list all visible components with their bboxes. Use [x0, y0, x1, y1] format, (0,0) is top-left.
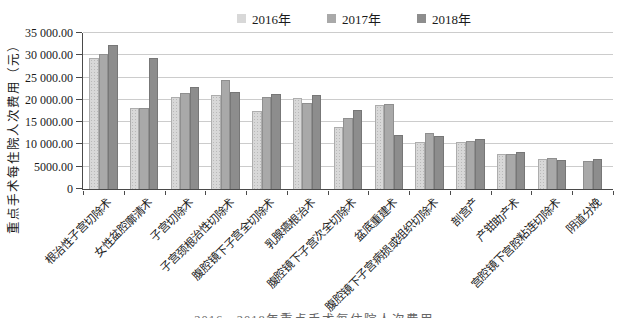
bar-group-剖宫产	[450, 33, 491, 189]
bar-group-盆底重建术	[368, 33, 409, 189]
bar-2016年-宫腔镜下宫腔粘连切除术	[538, 159, 548, 189]
y-axis-tick	[76, 121, 82, 122]
bar-2016年-剖宫产	[456, 142, 466, 189]
bar-2016年-盆底重建术	[375, 105, 385, 189]
bar-group-子宫切除术	[165, 33, 206, 189]
y-tick-label: 25 000.00	[25, 70, 73, 85]
bar-2018年-盆底重建术	[394, 135, 404, 189]
bar-2017年-子宫切除术	[180, 93, 190, 189]
legend-item-2018年: 2018年	[417, 9, 471, 28]
y-tick-label: 35 000.00	[25, 26, 73, 41]
x-axis-tick	[83, 191, 84, 195]
x-axis-tick	[368, 191, 369, 195]
bar-2016年-产钳助产术	[497, 154, 507, 189]
x-axis-label: 剖宫产	[447, 194, 482, 229]
x-axis-tick	[572, 191, 573, 195]
bar-2017年-剖宫产	[466, 141, 476, 189]
x-axis-tick	[409, 191, 410, 195]
legend-item-2017年: 2017年	[327, 9, 381, 28]
bar-2018年-宫腔镜下宫腔粘连切除术	[557, 160, 567, 189]
x-axis-tick	[450, 191, 451, 195]
bar-2018年-剖宫产	[475, 139, 485, 189]
bar-2018年-产钳助产术	[516, 152, 526, 189]
bar-2017年-乳腺癌根治术	[302, 103, 312, 189]
bar-group-乳腺癌根治术	[287, 33, 328, 189]
bar-group-宫腔镜下宫腔粘连切除术	[531, 33, 572, 189]
x-axis-tick	[246, 191, 247, 195]
bar-2017年-女性盆腔廓清术	[139, 108, 149, 189]
y-axis-tick	[76, 32, 82, 33]
x-axis-tick	[205, 191, 206, 195]
bar-group-根治性子宫切除术	[83, 33, 124, 189]
y-axis-tick	[76, 166, 82, 167]
bar-2018年-腹腔镜下子宫次全切除术	[353, 110, 363, 189]
x-axis-tick	[165, 191, 166, 195]
bar-group-阴道分娩	[572, 33, 613, 189]
bar-2018年-根治性子宫切除术	[108, 45, 118, 189]
y-tick-label: 10 000.00	[25, 137, 73, 152]
x-axis-tick	[287, 191, 288, 195]
bar-2017年-根治性子宫切除术	[99, 54, 109, 189]
bar-2017年-阴道分娩	[583, 161, 593, 189]
x-axis-label: 阴道分娩	[561, 194, 603, 236]
bar-2016年-女性盆腔廓清术	[130, 108, 140, 189]
bar-2016年-腹腔镜下子宫全切除术	[252, 111, 262, 189]
bar-chart-figure: 2016年2017年2018年 重点手术每住院人次费用（元） 35 000.00…	[0, 0, 628, 318]
bar-2017年-盆底重建术	[384, 104, 394, 189]
y-axis-tick	[76, 77, 82, 78]
bar-2017年-宫腔镜下宫腔粘连切除术	[547, 158, 557, 189]
legend-label: 2016年	[252, 9, 291, 28]
legend-swatch-icon	[327, 14, 336, 23]
bar-2016年-腹腔镜下子宫次全切除术	[334, 127, 344, 189]
bar-2017年-产钳助产术	[506, 154, 516, 189]
y-tick-label: 20 000.00	[25, 92, 73, 107]
x-axis-tick	[491, 191, 492, 195]
x-axis-tick	[328, 191, 329, 195]
x-axis-tick	[124, 191, 125, 195]
bar-2018年-阴道分娩	[593, 159, 603, 189]
y-axis-tick	[76, 143, 82, 144]
bar-2018年-腹腔镜下子宫全切除术	[271, 94, 281, 189]
legend-swatch-icon	[417, 14, 426, 23]
plot-area: 根治性子宫切除术女性盆腔廓清术子宫切除术子宫颈根治性切除术腹腔镜下子宫全切除术乳…	[82, 33, 613, 190]
y-tick-label: 30 000.00	[25, 48, 73, 63]
bar-2017年-子宫颈根治性切除术	[221, 80, 231, 189]
y-axis-tick	[76, 99, 82, 100]
legend-item-2016年: 2016年	[237, 9, 291, 28]
y-axis-tick-labels: 35 000.0030 000.0025 000.0020 000.0015 0…	[0, 33, 77, 189]
bar-2018年-子宫颈根治性切除术	[230, 92, 240, 189]
y-axis-tick	[76, 188, 82, 189]
x-axis-tick	[531, 191, 532, 195]
legend-swatch-icon	[237, 14, 246, 23]
y-tick-label: 0	[67, 182, 73, 197]
bar-group-女性盆腔廓清术	[124, 33, 165, 189]
bar-group-腹腔镜下子宫全切除术	[246, 33, 287, 189]
y-tick-label: 5000.00	[34, 159, 73, 174]
x-axis-tick	[613, 191, 614, 195]
legend-label: 2018年	[432, 9, 471, 28]
bar-2018年-子宫切除术	[190, 87, 200, 189]
bar-2016年-根治性子宫切除术	[89, 58, 99, 189]
bar-2017年-腹腔镜下子宫病损或组织切除术	[425, 133, 435, 189]
bar-group-腹腔镜下子宫病损或组织切除术	[409, 33, 450, 189]
legend-label: 2017年	[342, 9, 381, 28]
y-axis-tick	[76, 54, 82, 55]
chart-legend: 2016年2017年2018年	[80, 9, 628, 28]
bar-2018年-乳腺癌根治术	[312, 95, 322, 189]
bar-2017年-腹腔镜下子宫全切除术	[262, 97, 272, 189]
bar-2017年-腹腔镜下子宫次全切除术	[343, 118, 353, 189]
figure-caption-clipped: 2016—2018年重点手术每住院人次费用	[0, 309, 628, 318]
bar-group-子宫颈根治性切除术	[205, 33, 246, 189]
bar-2016年-乳腺癌根治术	[293, 98, 303, 189]
bar-2018年-女性盆腔廓清术	[149, 58, 159, 189]
bar-2016年-腹腔镜下子宫病损或组织切除术	[415, 142, 425, 189]
bar-group-产钳助产术	[491, 33, 532, 189]
y-tick-label: 15 000.00	[25, 115, 73, 130]
bar-2016年-子宫切除术	[171, 97, 181, 189]
bar-2016年-子宫颈根治性切除术	[211, 95, 221, 189]
bar-2018年-腹腔镜下子宫病损或组织切除术	[434, 136, 444, 189]
bar-group-腹腔镜下子宫次全切除术	[328, 33, 369, 189]
